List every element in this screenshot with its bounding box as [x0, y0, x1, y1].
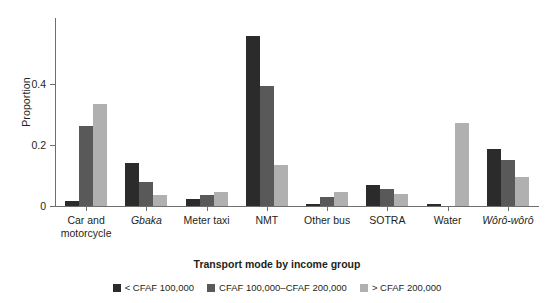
legend-swatch-icon — [113, 284, 121, 292]
bar-group — [56, 18, 116, 206]
bar — [366, 185, 380, 206]
bar — [200, 195, 214, 206]
legend-entry: < CFAF 100,000 — [113, 283, 194, 293]
bar — [214, 192, 228, 206]
x-axis-tick-mark — [146, 206, 147, 211]
legend-label: < CFAF 100,000 — [125, 283, 194, 293]
chart-legend: < CFAF 100,000CFAF 100,000–CFAF 200,000>… — [0, 283, 554, 293]
bar-group — [357, 18, 417, 206]
bar — [515, 177, 529, 206]
y-axis-tick-mark — [50, 145, 55, 146]
bar — [125, 163, 139, 206]
bar — [93, 104, 107, 206]
bar — [320, 197, 334, 206]
y-axis-tick-mark — [50, 206, 55, 207]
bar — [487, 149, 501, 206]
legend-label: CFAF 100,000–CFAF 200,000 — [219, 283, 347, 293]
y-axis-tick-label: 0 — [40, 201, 46, 212]
bar — [380, 189, 394, 206]
bar — [246, 36, 260, 206]
y-axis-tick-label: 0.4 — [31, 78, 46, 89]
legend-swatch-icon — [360, 284, 368, 292]
legend-label: > CFAF 200,000 — [372, 283, 441, 293]
x-axis-tick-mark — [387, 206, 388, 211]
bar-group — [418, 18, 478, 206]
x-axis-tick-mark — [207, 206, 208, 211]
x-axis-tick-mark — [508, 206, 509, 211]
x-axis-tick-mark — [448, 206, 449, 211]
x-axis-tick-mark — [86, 206, 87, 211]
bar-group — [297, 18, 357, 206]
bar — [153, 195, 167, 206]
bar — [139, 182, 153, 206]
legend-swatch-icon — [207, 284, 215, 292]
bar-group — [478, 18, 538, 206]
bar-chart-figure: Proportion 00.20.4 Transport mode by inc… — [0, 0, 554, 303]
x-axis-tick-mark — [327, 206, 328, 211]
legend-entry: > CFAF 200,000 — [360, 283, 441, 293]
y-axis-tick-label: 0.2 — [31, 140, 46, 151]
x-axis-tick-mark — [267, 206, 268, 211]
bar — [501, 160, 515, 206]
bar-group — [177, 18, 237, 206]
bar — [186, 199, 200, 206]
bar — [274, 165, 288, 206]
plot-area — [56, 18, 538, 206]
bar — [455, 123, 469, 206]
bar — [79, 126, 93, 206]
bar-group — [237, 18, 297, 206]
x-axis-tick-label: Wôrô-wôrô — [465, 214, 551, 227]
x-axis-line — [55, 206, 539, 207]
bar-group — [116, 18, 176, 206]
bar — [334, 192, 348, 206]
x-axis-title: Transport mode by income group — [0, 258, 554, 270]
y-axis-tick-mark — [50, 84, 55, 85]
bar — [394, 194, 408, 206]
legend-entry: CFAF 100,000–CFAF 200,000 — [207, 283, 347, 293]
bar — [260, 86, 274, 206]
